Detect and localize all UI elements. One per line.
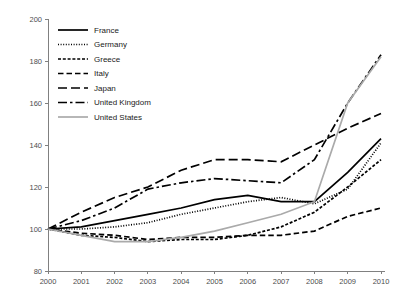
- chart-background: [0, 0, 394, 299]
- x-tick-label: 2005: [206, 277, 223, 286]
- y-tick-label: 140: [29, 141, 42, 150]
- x-tick-label: 2000: [40, 277, 57, 286]
- legend-label-japan: Japan: [94, 84, 116, 93]
- x-tick-label: 2007: [273, 277, 290, 286]
- legend-label-greece: Greece: [94, 55, 121, 64]
- x-tick-label: 2003: [140, 277, 157, 286]
- y-tick-label: 180: [29, 57, 42, 66]
- y-tick-label: 160: [29, 99, 42, 108]
- legend-label-france: France: [94, 26, 119, 35]
- y-tick-label: 80: [34, 267, 42, 276]
- x-tick-label: 2002: [106, 277, 123, 286]
- y-tick-label: 120: [29, 183, 42, 192]
- x-tick-label: 2004: [173, 277, 190, 286]
- legend-label-united-states: United States: [94, 113, 142, 122]
- y-tick-label: 200: [29, 15, 42, 24]
- y-tick-label: 100: [29, 225, 42, 234]
- legend-label-united-kingdom: United Kingdom: [94, 98, 151, 107]
- legend-label-germany: Germany: [94, 40, 127, 49]
- x-tick-label: 2009: [339, 277, 356, 286]
- line-chart-figure: 80100120140160180200 2000200120022003200…: [0, 0, 394, 299]
- x-tick-label: 2006: [239, 277, 256, 286]
- x-tick-label: 2010: [373, 277, 390, 286]
- x-tick-label: 2008: [306, 277, 323, 286]
- x-tick-label: 2001: [73, 277, 90, 286]
- chart-canvas: 80100120140160180200 2000200120022003200…: [0, 0, 394, 299]
- legend-label-italy: Italy: [94, 69, 109, 78]
